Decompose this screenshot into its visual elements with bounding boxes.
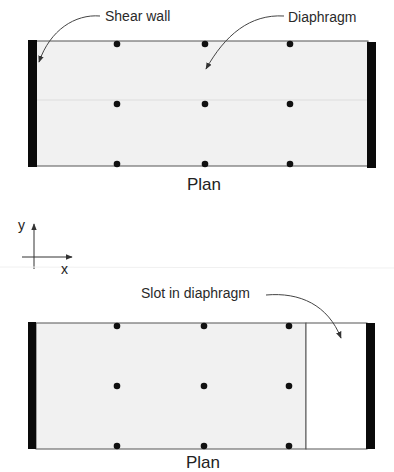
y-axis-label: y [18,218,25,232]
bottom-right-shear-wall [366,323,375,449]
x-axis-label: x [61,262,68,276]
top-plan [28,16,376,168]
diaphragm-slot [306,323,367,449]
structural-plan-figure [0,0,394,472]
bottom-plan-caption: Plan [186,454,220,471]
slot-label: Slot in diaphragm [141,286,250,300]
bottom-diaphragm [36,323,306,449]
top-plan-caption: Plan [187,176,221,193]
diaphragm-label: Diaphragm [288,10,356,24]
shear-wall-label: Shear wall [105,9,170,23]
top-right-shear-wall [367,42,376,168]
bottom-plan [28,295,375,450]
top-left-shear-wall [28,40,37,167]
bottom-left-shear-wall [28,322,36,449]
